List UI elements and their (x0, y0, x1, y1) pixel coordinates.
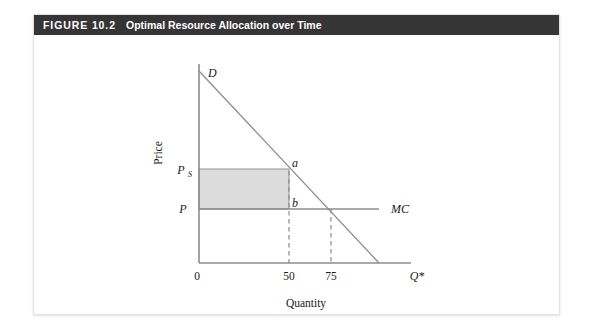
x-tick-label-75: 75 (325, 270, 337, 282)
demand-curve-label: D (207, 66, 217, 80)
x-tick-label-50: 50 (283, 270, 295, 282)
chart-plot-area: D MC a b P S P 0 50 75 Q* Price Quantity (34, 35, 561, 316)
figure-title: Optimal Resource Allocation over Time (126, 19, 321, 31)
point-label-b: b (292, 196, 298, 210)
figure-number-label: FIGURE 10.2 (34, 19, 126, 31)
demand-curve-line (199, 71, 379, 263)
figure-container: FIGURE 10.2 Optimal Resource Allocation … (33, 14, 560, 315)
y-axis-title: Price (152, 141, 164, 165)
x-axis-end-label-qstar: Q* (410, 269, 425, 283)
y-tick-label-p: P (178, 202, 187, 216)
y-tick-label-ps: P (176, 163, 185, 177)
marginal-cost-label: MC (390, 202, 410, 216)
chart-svg: D MC a b P S P 0 50 75 Q* Price Quantity (34, 35, 561, 316)
shaded-region-scarcity-rent (199, 169, 289, 209)
point-label-a: a (292, 156, 298, 170)
x-axis-title: Quantity (286, 297, 326, 310)
x-tick-label-0: 0 (194, 270, 200, 282)
figure-header-bar: FIGURE 10.2 Optimal Resource Allocation … (34, 15, 559, 35)
y-tick-label-ps-subscript: S (188, 170, 192, 179)
